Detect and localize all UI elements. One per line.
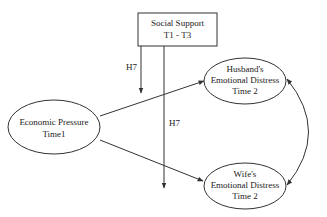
h7-label-lower: H7 bbox=[169, 118, 180, 128]
husband-distress-node: Husband's Emotional Distress Time 2 bbox=[204, 58, 286, 104]
path-ep-to-husband bbox=[100, 81, 204, 116]
social-support-label-line1: Social Support bbox=[151, 18, 205, 28]
social-support-node: Social Support T1 - T3 bbox=[138, 13, 217, 46]
husband-label-line2: Emotional Distress bbox=[211, 75, 280, 85]
wife-distress-node: Wife's Emotional Distress Time 2 bbox=[204, 163, 286, 209]
wife-label-line2: Emotional Distress bbox=[211, 180, 280, 190]
husband-label-line3: Time 2 bbox=[232, 86, 257, 96]
covariance-double-arrow bbox=[287, 79, 309, 185]
social-support-label-line2: T1 - T3 bbox=[164, 30, 192, 40]
path-diagram: Social Support T1 - T3 H7 H7 Economic Pr… bbox=[0, 0, 327, 217]
path-ep-to-wife bbox=[100, 140, 203, 181]
husband-label-line1: Husband's bbox=[226, 64, 264, 74]
economic-pressure-node: Economic Pressure Time1 bbox=[8, 100, 100, 154]
wife-label-line3: Time 2 bbox=[232, 191, 257, 201]
wife-label-line1: Wife's bbox=[234, 169, 257, 179]
economic-pressure-label-line1: Economic Pressure bbox=[19, 117, 88, 127]
economic-pressure-label-line2: Time1 bbox=[42, 129, 65, 139]
h7-label-upper: H7 bbox=[126, 62, 137, 72]
